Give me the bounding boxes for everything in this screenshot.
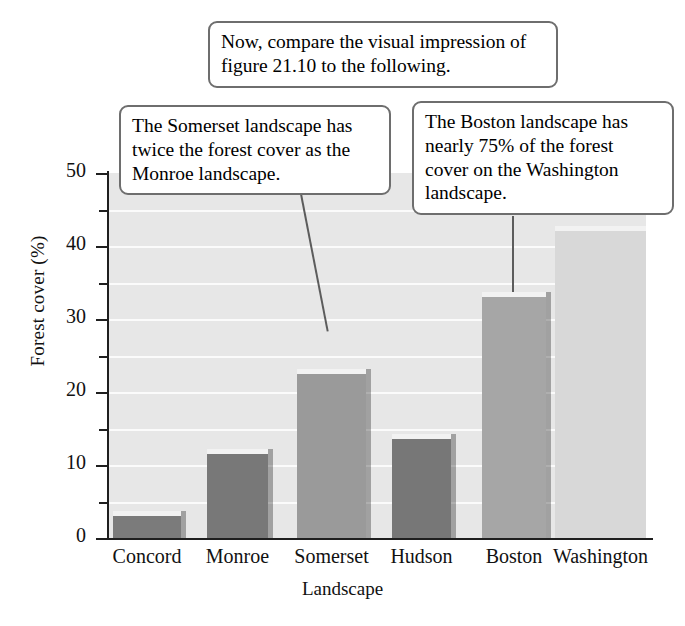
bar-top-highlight [555, 226, 646, 231]
bar-top-highlight [207, 449, 268, 454]
bar-face [207, 454, 268, 538]
y-tick-label: 0 [26, 524, 86, 547]
bar-chart-figure: Forest cover (%) 01020304050 ConcordMonr… [0, 0, 685, 626]
bar-boston [482, 297, 546, 538]
bar-top-highlight [297, 369, 366, 374]
y-tick-major [96, 246, 108, 248]
bar-washington [555, 231, 646, 538]
bar-face [113, 516, 181, 538]
x-axis-line [100, 538, 653, 540]
y-tick-major [96, 465, 108, 467]
annotation-somerset-note: The Somerset landscape has twice the for… [119, 105, 391, 195]
y-tick-major [96, 319, 108, 321]
y-tick-label: 40 [26, 232, 86, 255]
y-tick-label: 20 [26, 378, 86, 401]
bar-top-highlight [482, 292, 546, 297]
bar-side-shadow [451, 434, 456, 538]
y-axis-title: Forest cover (%) [27, 201, 49, 401]
annotation-top-note: Now, compare the visual impression of fi… [208, 21, 558, 88]
y-tick-minor [99, 283, 108, 285]
y-tick-label: 10 [26, 451, 86, 474]
bar-side-shadow [366, 369, 371, 538]
y-tick-minor [99, 210, 108, 212]
bar-face [555, 231, 646, 538]
bar-somerset [297, 374, 366, 538]
y-tick-major [96, 173, 108, 175]
y-tick-minor [99, 356, 108, 358]
plot-area [109, 173, 646, 538]
y-tick-minor [99, 429, 108, 431]
annotation-boston-note: The Boston landscape has nearly 75% of t… [412, 101, 674, 215]
leader-line-boston [512, 216, 514, 292]
x-axis-title: Landscape [0, 578, 685, 600]
bar-side-shadow [546, 292, 551, 538]
bar-concord [113, 516, 181, 538]
bar-hudson [392, 439, 451, 538]
bar-face [392, 439, 451, 538]
x-tick-label-washington: Washington [521, 545, 681, 568]
bar-top-highlight [113, 511, 181, 516]
y-tick-label: 30 [26, 305, 86, 328]
y-tick-minor [99, 502, 108, 504]
bar-face [482, 297, 546, 538]
bar-top-highlight [392, 434, 451, 439]
bar-face [297, 374, 366, 538]
bar-side-shadow [181, 511, 186, 538]
bar-side-shadow [268, 449, 273, 538]
y-tick-label: 50 [26, 159, 86, 182]
y-tick-major [96, 538, 108, 540]
y-tick-major [96, 392, 108, 394]
bar-monroe [207, 454, 268, 538]
